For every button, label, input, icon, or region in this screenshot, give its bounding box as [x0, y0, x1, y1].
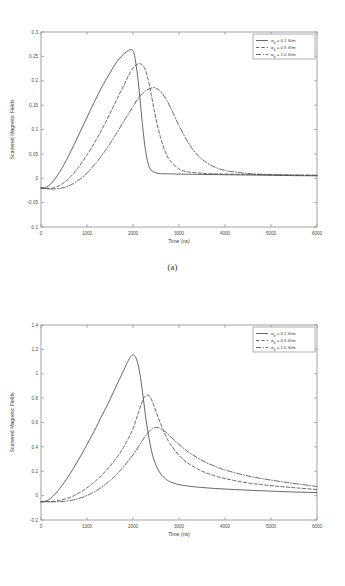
x-axis-title: Time (ns) — [168, 531, 190, 537]
figure-panel-a: 0100020003000400050006000-0.1-0.0500.050… — [0, 0, 345, 293]
series-line-1 — [41, 50, 317, 188]
y-tick-label: 0.6 — [32, 420, 39, 425]
x-axis-title: Time (ns) — [168, 238, 190, 244]
y-tick-label: 0.4 — [32, 445, 39, 450]
plot-frame — [41, 32, 317, 227]
y-tick-label: 0.1 — [32, 127, 39, 132]
series-line-2 — [41, 395, 317, 502]
figure-panel-b: 0100020003000400050006000-0.200.20.40.60… — [0, 293, 345, 586]
plot-area-a: 0100020003000400050006000-0.1-0.0500.050… — [0, 0, 345, 250]
y-tick-label: 1.2 — [32, 347, 39, 352]
y-tick-label: 1 — [35, 371, 38, 376]
y-tick-label: -0.2 — [30, 518, 38, 523]
chart-svg-a: 0100020003000400050006000-0.1-0.0500.050… — [0, 0, 345, 250]
x-tick-label: 5000 — [266, 524, 277, 529]
x-tick-label: 1000 — [82, 524, 93, 529]
x-tick-label: 5000 — [266, 231, 277, 236]
y-tick-label: 0 — [35, 493, 38, 498]
y-tick-label: 1.4 — [32, 323, 39, 328]
plot-area-b: 0100020003000400050006000-0.200.20.40.60… — [0, 293, 345, 543]
y-axis-title: Scattered Magnetic Fields — [9, 99, 15, 159]
x-tick-label: 1000 — [82, 231, 93, 236]
y-tick-label: 0.2 — [32, 78, 39, 83]
x-tick-label: 2000 — [128, 524, 139, 529]
y-tick-label: 0.25 — [29, 54, 38, 59]
y-tick-label: 0.2 — [32, 469, 39, 474]
x-tick-label: 0 — [40, 231, 43, 236]
y-tick-label: 0.3 — [32, 30, 39, 35]
x-tick-label: 4000 — [220, 524, 231, 529]
series-line-1 — [41, 355, 317, 502]
chart-svg-b: 0100020003000400050006000-0.200.20.40.60… — [0, 293, 345, 543]
x-tick-label: 6000 — [312, 524, 323, 529]
x-tick-label: 4000 — [220, 231, 231, 236]
x-tick-label: 3000 — [174, 524, 185, 529]
y-tick-label: 0.8 — [32, 396, 39, 401]
figure-page: 0100020003000400050006000-0.1-0.0500.050… — [0, 0, 345, 586]
y-tick-label: -0.1 — [30, 225, 38, 230]
y-tick-label: 0 — [35, 176, 38, 181]
figure-caption-a: (a) — [0, 262, 345, 272]
y-tick-label: -0.05 — [28, 200, 39, 205]
x-tick-label: 0 — [40, 524, 43, 529]
x-tick-label: 3000 — [174, 231, 185, 236]
y-tick-label: 0.05 — [29, 152, 38, 157]
y-axis-title: Scattered Magnetic Fields — [9, 392, 15, 452]
x-tick-label: 2000 — [128, 231, 139, 236]
y-tick-label: 0.15 — [29, 103, 38, 108]
x-tick-label: 6000 — [312, 231, 323, 236]
